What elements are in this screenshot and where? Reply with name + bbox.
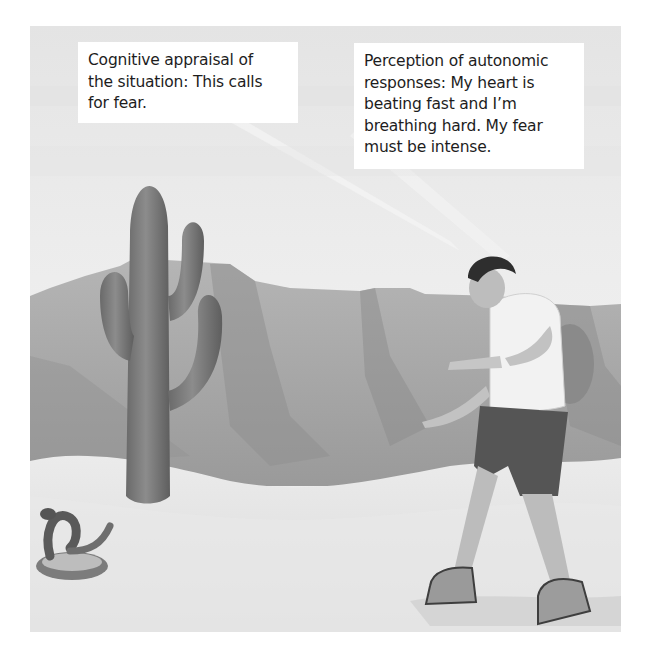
caption-line: the situation: This calls [88,72,288,94]
caption-line: beating fast and I’m [364,94,576,116]
caption-line: for fear. [88,93,288,115]
autonomic-perception-caption: Perception of autonomic responses: My he… [354,43,584,169]
caption-line: Perception of autonomic [364,51,576,73]
caption-line: responses: My heart is [364,73,576,95]
caption-line: Cognitive appraisal of [88,50,288,72]
cognitive-appraisal-caption: Cognitive appraisal of the situation: Th… [78,42,298,123]
caption-line: breathing hard. My fear [364,116,576,138]
caption-line: must be intense. [364,137,576,159]
